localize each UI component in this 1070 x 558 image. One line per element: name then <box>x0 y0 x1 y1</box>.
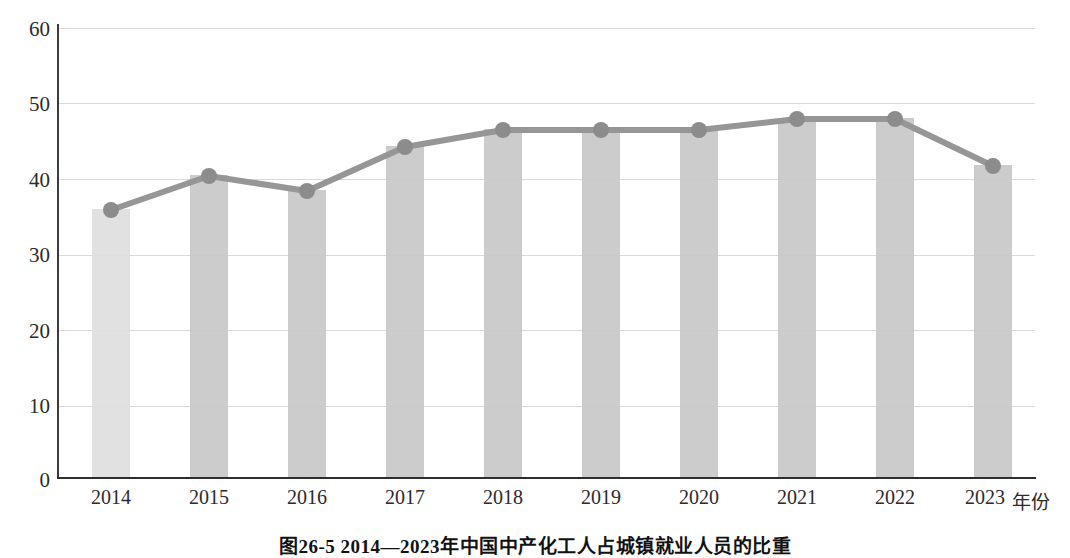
y-tick-60: 60 <box>4 17 50 42</box>
x-tick-2016: 2016 <box>262 486 352 509</box>
x-tick-2018: 2018 <box>458 486 548 509</box>
x-axis-line <box>57 477 1036 479</box>
x-tick-2020: 2020 <box>654 486 744 509</box>
bar-2022 <box>876 118 914 478</box>
figure-caption: 图26-5 2014—2023年中国中产化工人占城镇就业人员的比重 <box>0 531 1070 558</box>
bar-2016 <box>288 190 326 478</box>
x-axis-title: 年份 <box>1012 487 1050 514</box>
bar-2018 <box>484 129 522 478</box>
bar-2015 <box>190 175 228 478</box>
bar-2021 <box>778 118 816 478</box>
bar-2023 <box>974 165 1012 478</box>
bar-2017 <box>386 146 424 478</box>
y-tick-30: 30 <box>4 243 50 268</box>
y-tick-10: 10 <box>4 394 50 419</box>
y-tick-40: 40 <box>4 168 50 193</box>
y-tick-20: 20 <box>4 319 50 344</box>
x-tick-2015: 2015 <box>164 486 254 509</box>
x-tick-2017: 2017 <box>360 486 450 509</box>
gridline-60 <box>58 28 1035 29</box>
bar-2019 <box>582 129 620 478</box>
y-tick-50: 50 <box>4 92 50 117</box>
bar-2020 <box>680 129 718 478</box>
x-tick-2021: 2021 <box>752 486 842 509</box>
bar-2014 <box>92 209 130 478</box>
x-tick-2019: 2019 <box>556 486 646 509</box>
gridline-50 <box>58 103 1035 104</box>
x-tick-2022: 2022 <box>850 486 940 509</box>
y-tick-0: 0 <box>4 468 50 493</box>
y-axis-line <box>57 24 59 479</box>
x-tick-2014: 2014 <box>66 486 156 509</box>
